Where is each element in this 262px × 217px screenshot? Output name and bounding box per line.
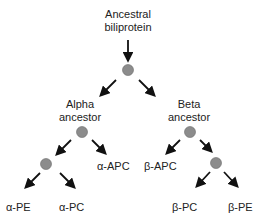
leaf-beta-pe: β-PE (228, 201, 253, 213)
root-label-line2: biliprotein (104, 21, 151, 33)
arrow-alpha-to-node (57, 140, 71, 154)
arrow-root-to-alpha (101, 80, 116, 95)
leaf-alpha-pe: α-PE (6, 201, 31, 213)
root-node (123, 65, 134, 76)
arrow-beta-to-apc (167, 140, 180, 153)
alpha-child-node (41, 159, 52, 170)
arrow-beta-node-to-pe (224, 172, 237, 186)
arrow-beta-to-node (200, 140, 211, 151)
biliprotein-evolution-diagram: Ancestral biliprotein Alpha ancestor Bet… (0, 0, 262, 217)
beta-child-node (211, 158, 222, 169)
leaf-alpha-pc: α-PC (59, 201, 84, 213)
arrow-root-to-beta (139, 80, 154, 95)
root-label-line1: Ancestral (105, 8, 151, 20)
leaf-beta-apc: β-APC (144, 160, 177, 172)
arrow-alpha-node-to-pe (26, 173, 40, 187)
leaf-alpha-apc: α-APC (97, 160, 130, 172)
beta-ancestor-node (185, 127, 196, 138)
leaf-beta-pc: β-PC (172, 201, 197, 213)
beta-label-line2: ancestor (168, 111, 211, 123)
alpha-label-line2: ancestor (59, 111, 102, 123)
arrow-alpha-to-apc (92, 140, 105, 153)
arrow-alpha-node-to-pc (60, 173, 74, 187)
alpha-ancestor-node (77, 127, 88, 138)
alpha-label-line1: Alpha (66, 98, 95, 110)
beta-label-line1: Beta (178, 98, 202, 110)
arrow-beta-node-to-pc (197, 172, 210, 186)
